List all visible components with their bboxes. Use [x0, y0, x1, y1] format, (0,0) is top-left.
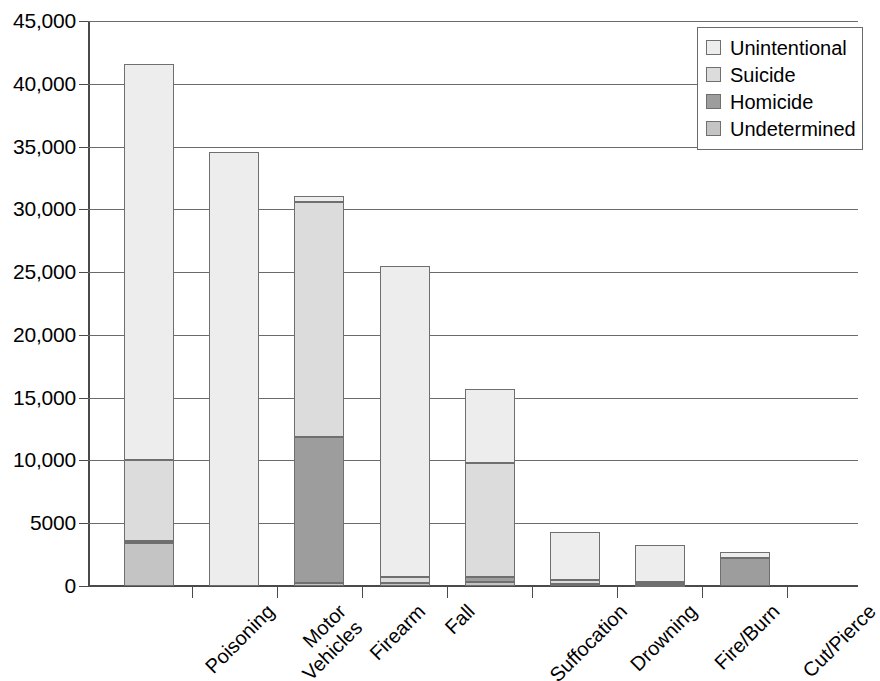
legend-swatch-unintentional	[706, 40, 721, 55]
x-axis-label-fire-burn: Fire/Burn	[710, 600, 784, 674]
y-axis-tick	[79, 523, 88, 524]
bar-segment-unintentional	[380, 266, 430, 577]
y-axis-tick	[79, 209, 88, 210]
bar-segment-unintentional	[550, 532, 600, 580]
legend-swatch-homicide	[706, 94, 721, 109]
y-axis-tick-label: 30,000	[13, 198, 76, 219]
y-axis-tick	[79, 586, 88, 587]
bar-segment-suicide	[124, 460, 174, 541]
bar-segment-unintentional	[635, 545, 685, 583]
bar-cut-pierce	[720, 21, 770, 586]
x-axis-label-fall: Fall	[440, 600, 479, 639]
y-axis-tick-label: 20,000	[13, 324, 76, 345]
x-axis-label-motor-vehicles: Motor Vehicles	[282, 600, 367, 681]
y-axis-tick	[79, 147, 88, 148]
x-axis-tick	[617, 587, 618, 598]
y-axis-tick-label: 15,000	[13, 387, 76, 408]
x-axis-label-cut-pierce: Cut/Pierce	[798, 600, 880, 681]
x-axis-tick	[362, 587, 363, 598]
bar-segment-undetermined	[380, 583, 430, 586]
legend-swatch-suicide	[706, 67, 721, 82]
bar-segment-unintentional	[720, 552, 770, 558]
bar-segment-undetermined	[550, 584, 600, 586]
legend-swatch-undetermined	[706, 121, 721, 136]
bar-segment-unintentional	[294, 196, 344, 202]
bar-segment-suicide	[294, 202, 344, 437]
x-axis-tick	[532, 587, 533, 598]
y-axis-tick	[79, 21, 88, 22]
x-axis-tick	[702, 587, 703, 598]
bar-segment-homicide	[294, 437, 344, 584]
bar-segment-undetermined	[465, 582, 515, 586]
bar-fire-burn	[635, 21, 685, 586]
bar-segment-homicide	[720, 558, 770, 586]
y-axis-tick-label: 35,000	[13, 136, 76, 157]
y-axis-tick-label: 40,000	[13, 73, 76, 94]
bar-segment-unintentional	[465, 389, 515, 463]
bar-segment-undetermined	[294, 583, 344, 586]
bar-segment-suicide	[465, 463, 515, 577]
x-axis-label-firearm: Firearm	[365, 600, 430, 665]
bar-segment-homicide	[465, 577, 515, 581]
bar-segment-homicide	[635, 584, 685, 586]
x-axis-label-drowning: Drowning	[626, 600, 702, 676]
bar-firearm	[294, 21, 344, 586]
bar-segment-unintentional	[124, 64, 174, 461]
y-axis-tick	[79, 335, 88, 336]
x-axis-tick	[787, 587, 788, 598]
bar-drowning	[550, 21, 600, 586]
bar-segment-suicide	[380, 577, 430, 583]
bar-segment-homicide	[124, 541, 174, 543]
y-axis-tick-label: 5000	[30, 512, 76, 533]
bar-segment-undetermined	[124, 543, 174, 586]
y-axis-tick-label: 10,000	[13, 449, 76, 470]
x-axis-label-poisoning: Poisoning	[201, 600, 279, 678]
y-axis-tick	[79, 398, 88, 399]
bar-motor-vehicles	[209, 21, 259, 586]
bar-segment-unintentional	[209, 152, 259, 586]
y-axis-tick-label: 25,000	[13, 261, 76, 282]
y-axis-tick-label: 45,000	[13, 10, 76, 31]
x-axis-tick	[447, 587, 448, 598]
x-axis-tick	[277, 587, 278, 598]
x-axis-label-suffocation: Suffocation	[545, 600, 632, 681]
bar-segment-suicide	[550, 580, 600, 584]
bar-fall	[380, 21, 430, 586]
bar-suffocation	[465, 21, 515, 586]
y-axis-tick	[79, 272, 88, 273]
y-axis-tick	[79, 460, 88, 461]
y-axis-tick-label: 0	[65, 575, 76, 596]
bar-segment-suicide	[635, 582, 685, 584]
y-axis-tick	[79, 84, 88, 85]
x-axis-tick	[192, 587, 193, 598]
bar-poisoning	[124, 21, 174, 586]
